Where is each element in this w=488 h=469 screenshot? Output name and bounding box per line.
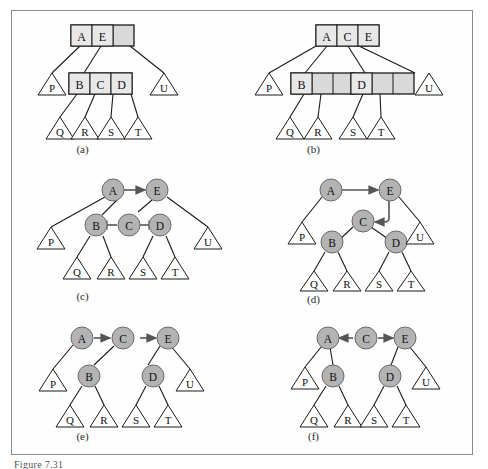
leaf-r-triangle: R: [90, 405, 118, 427]
edge-root-bcd: [84, 46, 101, 73]
leaf-r-triangle: R: [71, 117, 99, 139]
node-bcd-box: B C D: [69, 73, 132, 94]
edge-e-u: [167, 197, 208, 227]
leaf-p-label: P: [266, 82, 272, 94]
node-d-box: D: [351, 73, 414, 94]
node-root-slot-2: E: [365, 30, 372, 44]
leaf-t-label: T: [135, 126, 142, 138]
edge-d-t: [397, 386, 406, 405]
leaf-p-label: P: [49, 82, 55, 94]
leaf-u-triangle: U: [150, 73, 178, 95]
leaf-q-label: Q: [73, 266, 81, 278]
edge-d-s: [374, 386, 384, 405]
edge-a-b: [330, 347, 333, 365]
leaf-t-triangle: T: [392, 405, 420, 427]
edge-b-r: [318, 94, 321, 117]
figure-frame: A E B C D P U: [11, 10, 473, 455]
panel-f-label: (f): [198, 430, 429, 442]
leaf-s-triangle: S: [97, 117, 125, 139]
panel-b-label: (b): [198, 143, 429, 155]
leaf-q-label: Q: [310, 414, 318, 426]
leaf-r-label: R: [107, 266, 115, 278]
node-bcd-slot-0: B: [75, 78, 83, 92]
arrow-e-to-c: [375, 201, 389, 222]
node-c-label: C: [125, 220, 133, 232]
leaf-p-triangle: P: [38, 73, 66, 95]
node-c-label: C: [119, 333, 127, 345]
node-b-circle: B: [78, 365, 100, 387]
panel-a-label: (a): [0, 143, 198, 155]
leaf-s-label: S: [108, 126, 114, 138]
node-a-label: A: [78, 333, 87, 345]
edge-b-r: [95, 386, 104, 405]
node-d-circle: D: [379, 365, 401, 387]
node-b-box: B: [291, 73, 354, 94]
edge-e-u: [399, 197, 420, 222]
leaf-s-label: S: [371, 414, 377, 426]
leaf-q-triangle: Q: [46, 117, 74, 139]
edge-d-s: [111, 94, 113, 117]
leaf-s-label: S: [140, 266, 146, 278]
edge-root-p: [52, 46, 80, 73]
leaf-u-label: U: [186, 378, 194, 390]
leaf-t-label: T: [165, 414, 172, 426]
panel-f: A C E B D P U: [243, 309, 474, 456]
edge-root-u: [130, 46, 164, 73]
panel-c-diagram: A E B C D P U: [12, 159, 243, 295]
edge-d-s: [143, 236, 153, 257]
node-b-slot-0: B: [297, 78, 305, 92]
node-d-label: D: [386, 371, 394, 383]
edge-d-t: [159, 386, 168, 405]
leaf-q-triangle: Q: [300, 271, 328, 291]
edge-a-p: [53, 345, 73, 369]
leaf-r-triangle: R: [97, 257, 125, 279]
leaf-q-triangle: Q: [300, 405, 328, 427]
edge-d-t: [131, 94, 138, 117]
node-e-label: E: [153, 185, 160, 197]
edge-d-t: [380, 94, 381, 117]
node-bcd-slot-1: C: [96, 78, 104, 92]
edge-d-s: [379, 252, 389, 271]
leaf-p-triangle: P: [255, 73, 283, 95]
edge-a-p: [302, 197, 322, 222]
node-a-circle: A: [317, 327, 339, 349]
edge-b-r: [338, 252, 347, 271]
node-e-label: E: [386, 185, 393, 197]
node-e-label: E: [401, 333, 408, 345]
node-c-circle: C: [355, 327, 377, 349]
node-a-label: A: [327, 185, 336, 197]
node-b-label: B: [92, 220, 100, 232]
node-root-slot-0: A: [77, 30, 86, 44]
leaf-s-triangle: S: [129, 257, 157, 279]
leaf-p-label: P: [302, 376, 308, 388]
leaf-p-triangle: P: [291, 367, 319, 389]
leaf-s-triangle: S: [365, 271, 393, 291]
leaf-p-triangle: P: [37, 227, 65, 249]
leaf-u-triangle: U: [415, 73, 443, 95]
edge-c-r: [85, 94, 95, 117]
leaf-q-label: Q: [56, 126, 64, 138]
leaf-q-triangle: Q: [63, 257, 91, 279]
node-a-circle: A: [71, 327, 93, 349]
leaf-r-triangle: R: [304, 117, 332, 139]
leaf-s-label: S: [350, 126, 356, 138]
edge-e-d: [391, 347, 398, 365]
node-c-circle: C: [112, 327, 134, 349]
leaf-u-label: U: [422, 376, 430, 388]
leaf-q-triangle: Q: [56, 405, 84, 427]
edge-b-r: [339, 386, 348, 405]
edge-e-d: [148, 346, 160, 365]
leaf-q-label: Q: [310, 278, 318, 290]
leaf-t-triangle: T: [397, 271, 425, 291]
leaf-r-label: R: [100, 414, 108, 426]
node-a-label: A: [109, 185, 118, 197]
leaf-t-triangle: T: [367, 117, 395, 139]
leaf-r-label: R: [343, 278, 351, 290]
edge-d-s: [353, 94, 363, 117]
leaf-p-label: P: [299, 231, 305, 243]
node-b-label: B: [85, 371, 93, 383]
node-root-slot-1: E: [99, 30, 106, 44]
edge-d-s: [136, 386, 146, 405]
edge-root-u: [359, 46, 415, 73]
edge-root-d: [348, 46, 365, 73]
